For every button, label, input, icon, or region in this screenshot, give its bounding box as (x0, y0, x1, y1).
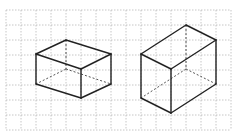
dotted-grid (6, 10, 231, 130)
visible-edge (66, 40, 111, 54)
left-prism (36, 40, 111, 98)
visible-edge (171, 84, 216, 113)
visible-edge (141, 25, 186, 54)
hidden-edge (141, 69, 186, 98)
grid-diagram (0, 0, 238, 134)
visible-edge (36, 54, 81, 69)
visible-edge (171, 40, 216, 69)
visible-edge (36, 40, 66, 54)
visible-edge (36, 84, 81, 98)
hidden-edge (66, 69, 111, 84)
